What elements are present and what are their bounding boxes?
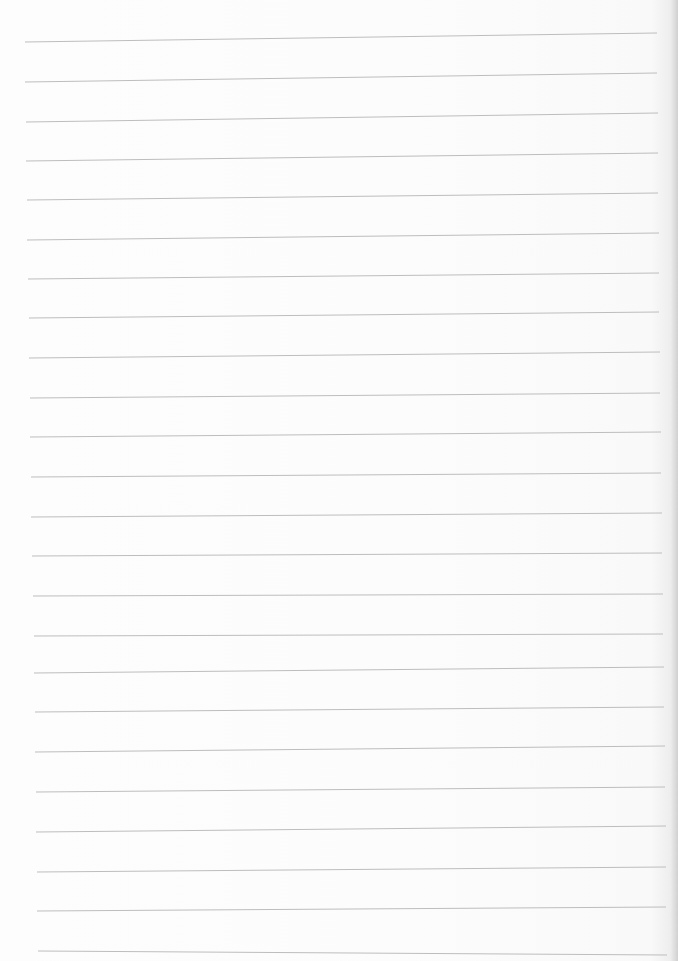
ruled-line [30, 432, 661, 437]
ruled-line [36, 787, 665, 792]
ruled-line [31, 513, 662, 517]
ruled-line [26, 153, 658, 161]
ruled-line [28, 273, 659, 279]
ruled-line [27, 233, 659, 240]
ruled-line [33, 594, 663, 596]
ruled-line [37, 907, 666, 911]
ruled-line [32, 553, 662, 556]
ruled-line [26, 113, 658, 122]
lined-paper-sheet [0, 0, 678, 961]
ruled-lines [0, 0, 678, 961]
ruled-line [37, 867, 666, 872]
ruled-line [35, 707, 664, 712]
ruled-line [34, 634, 663, 636]
ruled-line [25, 33, 657, 42]
ruled-line [34, 667, 664, 673]
page-edge-shadow [670, 0, 678, 961]
ruled-line [38, 951, 667, 955]
ruled-line [36, 826, 666, 832]
ruled-line [35, 746, 665, 752]
ruled-line [27, 193, 658, 200]
ruled-line [31, 473, 661, 477]
ruled-line [29, 352, 660, 358]
ruled-line [30, 393, 660, 398]
ruled-line [25, 73, 657, 82]
ruled-line [29, 312, 659, 318]
